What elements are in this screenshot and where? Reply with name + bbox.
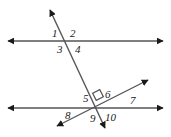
right-angle-marker [93,90,104,101]
lines-group [8,10,163,128]
angle-label-8: 8 [65,110,71,121]
angle-label-5: 5 [83,93,89,104]
angle-label-9: 9 [90,113,96,124]
angle-label-4: 4 [75,44,81,55]
steep-transversal-line [50,10,105,128]
geometry-canvas [0,0,171,137]
angle-label-2: 2 [70,28,76,39]
right-angle-group [93,90,104,101]
angle-label-6: 6 [105,89,111,100]
angle-label-1: 1 [52,28,58,39]
angle-label-10: 10 [105,112,116,123]
angle-label-7: 7 [130,95,136,106]
angle-label-3: 3 [57,44,63,55]
geometry-figure: 12345678910 [0,0,171,137]
